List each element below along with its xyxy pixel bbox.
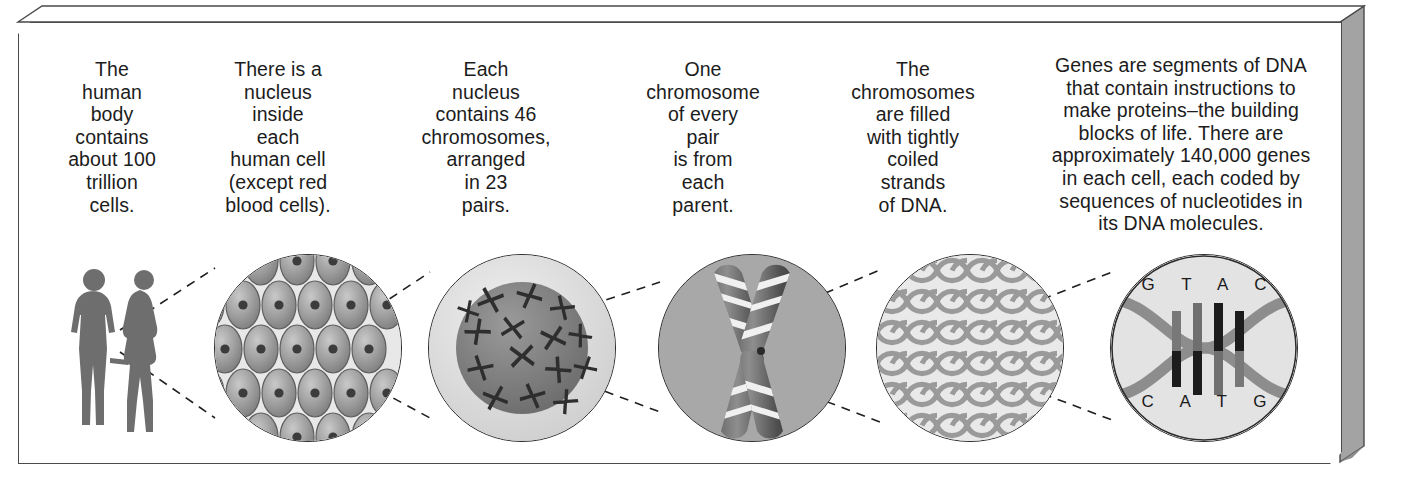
illustration-dna-helix-circle: G T A C C A T G	[1110, 254, 1298, 442]
illustration-cells-circle	[214, 254, 402, 442]
illustration-human-figures	[60, 262, 180, 442]
diagram-canvas: The human body contains about 100 trilli…	[0, 0, 1415, 495]
caption-cells: There is a nucleus inside each human cel…	[194, 58, 362, 216]
caption-coils: The chromosomes are filled with tightly …	[818, 58, 1008, 216]
caption-row: The human body contains about 100 trilli…	[18, 40, 1340, 230]
caption-nucleus: Each nucleus contains 46 chromosomes, ar…	[386, 58, 586, 216]
dna-bases-top: G T A C	[1111, 275, 1297, 295]
illustration-nucleus-circle	[428, 254, 616, 442]
caption-chromosome: One chromosome of every pair is from eac…	[610, 58, 796, 216]
illustration-coiled-dna-circle	[876, 254, 1064, 442]
illustration-chromosome-circle	[658, 254, 846, 442]
dna-bases-bottom: C A T G	[1111, 392, 1297, 412]
caption-dna: Genes are segments of DNA that contain i…	[1020, 54, 1342, 235]
caption-body: The human body contains about 100 trilli…	[32, 58, 192, 216]
